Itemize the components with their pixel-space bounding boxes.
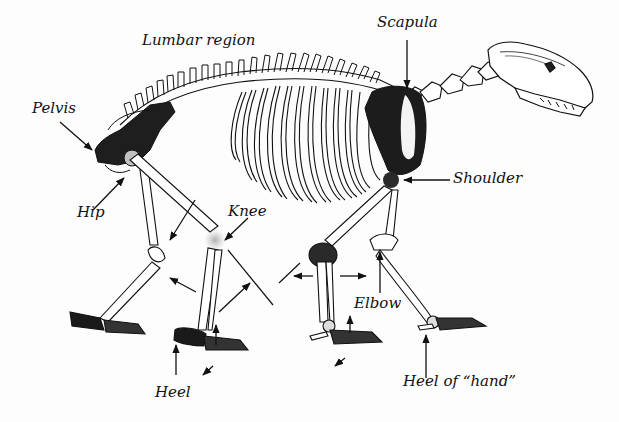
label-knee: Knee bbox=[228, 204, 267, 219]
reference-lines bbox=[228, 250, 300, 305]
bear-skeleton-diagram: Lumbar region Scapula Pelvis Shoulder Hi… bbox=[0, 0, 619, 422]
label-pelvis: Pelvis bbox=[32, 101, 76, 116]
label-lumbar-region: Lumbar region bbox=[142, 33, 255, 48]
skull bbox=[488, 42, 593, 116]
label-hip: Hip bbox=[77, 205, 104, 220]
label-scapula: Scapula bbox=[377, 15, 438, 30]
rib-cage bbox=[231, 86, 380, 203]
label-heel: Heel bbox=[155, 385, 191, 400]
label-elbow: Elbow bbox=[354, 296, 401, 311]
label-heel-of-hand: Heel of “hand” bbox=[403, 374, 516, 389]
hind-leg-rear bbox=[70, 168, 165, 334]
label-shoulder: Shoulder bbox=[453, 171, 522, 186]
